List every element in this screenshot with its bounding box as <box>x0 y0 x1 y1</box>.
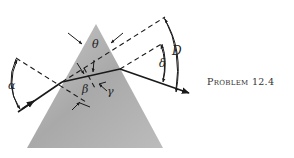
theta-label: θ <box>92 38 99 51</box>
D-label: D <box>171 44 182 58</box>
beta-label: β <box>81 83 88 96</box>
delta-label: δ <box>159 57 166 70</box>
alpha-label: α <box>8 79 16 92</box>
gamma-label: γ <box>107 85 114 98</box>
figure-caption: Problem 12.4 <box>207 76 274 87</box>
